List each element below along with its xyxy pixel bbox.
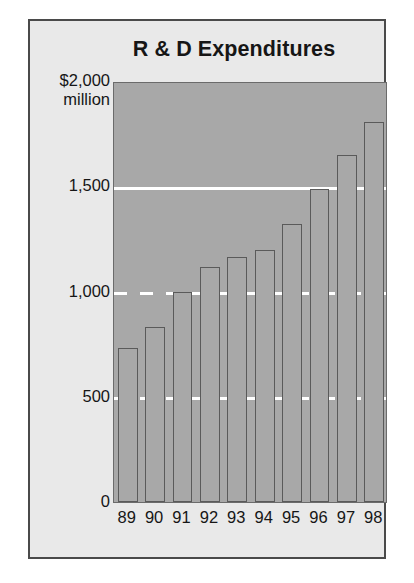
y-tick-label: 1,500 xyxy=(69,176,110,194)
x-tick-95: 95 xyxy=(277,508,304,527)
bar-93 xyxy=(227,257,247,502)
x-tick-92: 92 xyxy=(195,508,222,527)
y-tick-0: 0 xyxy=(24,492,110,511)
y-tick-1500: 1,500 xyxy=(24,176,110,195)
y-tick-500: 500 xyxy=(24,387,110,406)
bar-96 xyxy=(310,189,330,502)
y-tick-1000: 1,000 xyxy=(24,282,110,301)
bar-89 xyxy=(118,348,138,502)
x-axis: 89909192939495969798 xyxy=(113,508,387,534)
y-tick-label: 1,000 xyxy=(69,282,110,300)
bar-92 xyxy=(200,267,220,502)
bar-98 xyxy=(364,122,384,502)
bar-94 xyxy=(255,250,275,502)
bar-95 xyxy=(282,224,302,502)
y-axis: $2,000million1,5001,0005000 xyxy=(18,0,110,583)
bar-91 xyxy=(173,292,193,503)
x-tick-93: 93 xyxy=(223,508,250,527)
x-tick-94: 94 xyxy=(250,508,277,527)
y-tick-label: 500 xyxy=(82,387,110,405)
x-tick-89: 89 xyxy=(113,508,140,527)
y-tick-sublabel: million xyxy=(24,90,110,109)
x-tick-91: 91 xyxy=(168,508,195,527)
y-tick-label: $2,000 xyxy=(60,71,110,89)
y-tick-2000: $2,000million xyxy=(24,71,110,109)
plot-area xyxy=(113,82,387,503)
chart-title: R & D Expenditures xyxy=(84,34,384,64)
x-tick-97: 97 xyxy=(332,508,359,527)
bar-90 xyxy=(145,327,165,502)
x-tick-98: 98 xyxy=(360,508,387,527)
bar-series xyxy=(114,83,386,502)
x-tick-90: 90 xyxy=(140,508,167,527)
bar-97 xyxy=(337,155,357,502)
x-tick-96: 96 xyxy=(305,508,332,527)
chart-figure: R & D Expenditures $2,000million1,5001,0… xyxy=(0,0,414,583)
y-tick-label: 0 xyxy=(101,492,110,510)
